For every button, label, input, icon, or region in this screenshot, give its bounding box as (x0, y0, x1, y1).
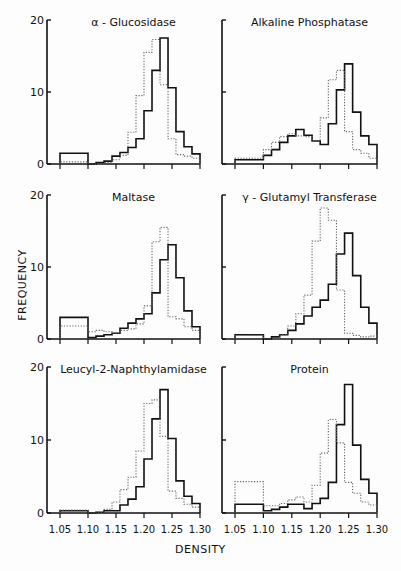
solid-histogram (60, 390, 200, 513)
svg-text:1.20: 1.20 (133, 524, 155, 535)
panel-5: 010201.051.101.151.201.251.30Leucyl-2-Na… (30, 361, 211, 535)
svg-text:1.10: 1.10 (77, 524, 99, 535)
svg-text:20: 20 (30, 361, 44, 374)
svg-text:10: 10 (30, 434, 44, 447)
solid-histogram (235, 385, 377, 513)
svg-text:Alkaline Phosphatase: Alkaline Phosphatase (251, 16, 368, 29)
svg-text:1.30: 1.30 (189, 524, 211, 535)
panel-6: 1.051.101.151.201.251.30Protein (222, 363, 388, 535)
svg-text:γ - Glutamyl Transferase: γ - Glutamyl Transferase (242, 191, 377, 204)
panel-1: 01020α - Glucosidase (30, 14, 200, 171)
svg-text:20: 20 (30, 189, 44, 202)
svg-text:0: 0 (37, 507, 44, 520)
panel-4: γ - Glutamyl Transferase (222, 191, 377, 344)
svg-text:1.20: 1.20 (309, 524, 331, 535)
svg-text:10: 10 (30, 86, 44, 99)
dotted-histogram (60, 39, 200, 164)
svg-text:Protein: Protein (290, 363, 329, 376)
svg-text:1.30: 1.30 (366, 524, 388, 535)
dotted-histogram (235, 70, 377, 164)
solid-histogram (235, 64, 377, 164)
solid-histogram (60, 245, 200, 339)
histogram-figure: 01020α - GlucosidaseAlkaline Phosphatase… (0, 0, 401, 571)
svg-text:20: 20 (30, 14, 44, 27)
dotted-histogram (60, 227, 200, 339)
svg-text:1.15: 1.15 (105, 524, 127, 535)
svg-text:1.05: 1.05 (49, 524, 71, 535)
panel-2: Alkaline Phosphatase (222, 16, 377, 169)
svg-text:0: 0 (37, 158, 44, 171)
svg-text:1.15: 1.15 (281, 524, 303, 535)
y-axis-label: FREQUENCY (2, 230, 42, 340)
svg-text:1.25: 1.25 (337, 524, 359, 535)
svg-text:α - Glucosidase: α - Glucosidase (91, 16, 176, 29)
dotted-histogram (60, 400, 200, 513)
dotted-histogram (235, 208, 377, 339)
svg-text:1.10: 1.10 (252, 524, 274, 535)
panel-3: 01020Maltase (30, 189, 200, 346)
solid-histogram (235, 233, 377, 339)
x-axis-label: DENSITY (175, 543, 226, 556)
svg-text:Maltase: Maltase (112, 191, 155, 204)
svg-text:1.05: 1.05 (224, 524, 246, 535)
dotted-histogram (235, 420, 377, 513)
svg-text:Leucyl-2-Naphthylamidase: Leucyl-2-Naphthylamidase (60, 363, 207, 376)
solid-histogram (60, 38, 200, 164)
y-axis-label-text: FREQUENCY (16, 249, 29, 321)
svg-text:1.25: 1.25 (161, 524, 183, 535)
